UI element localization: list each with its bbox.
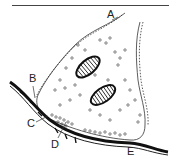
synaptic-vesicles <box>51 37 141 136</box>
label-e: E <box>127 146 134 157</box>
label-d: D <box>51 139 59 150</box>
mitochondrion-1 <box>73 53 103 82</box>
mitochondrion-2 <box>88 81 119 109</box>
label-c: C <box>27 118 35 129</box>
synapse-diagram <box>0 0 169 165</box>
leader-lines <box>33 17 118 138</box>
label-a: A <box>107 9 114 20</box>
label-b: B <box>29 73 36 84</box>
